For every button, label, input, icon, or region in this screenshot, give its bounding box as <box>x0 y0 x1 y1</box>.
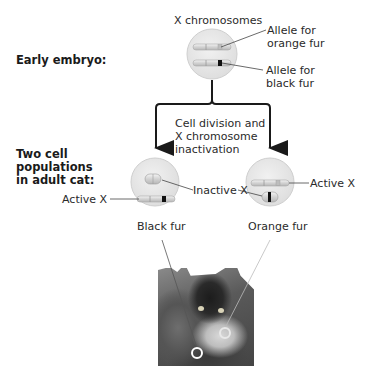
process-label: Cell division and X chromosome inactivat… <box>175 117 265 156</box>
allele-black-line2: black fur <box>266 77 315 90</box>
allele-black-line1: Allele for <box>266 64 315 77</box>
orange-fur-label: Orange fur <box>248 220 308 233</box>
black-fur-leader <box>162 240 197 348</box>
populations-line3: in adult cat: <box>16 174 94 187</box>
orange-fur-marker <box>220 328 230 338</box>
process-line3: inactivation <box>175 143 265 156</box>
allele-orange-line1: Allele for <box>267 24 325 37</box>
inactive-x-label: Inactive X <box>193 184 248 197</box>
black-fur-label: Black fur <box>137 220 186 233</box>
process-line1: Cell division and <box>175 117 265 130</box>
two-cell-populations-label: Two cell populations in adult cat: <box>16 148 94 187</box>
left-active-x-label: Active X <box>62 193 107 206</box>
black-fur-marker <box>192 348 202 358</box>
right-active-x-label: Active X <box>310 177 355 190</box>
allele-orange-line2: orange fur <box>267 37 325 50</box>
process-line2: X chromosome <box>175 130 265 143</box>
orange-fur-leader <box>225 240 270 328</box>
allele-orange-label: Allele for orange fur <box>267 24 325 50</box>
early-embryo-label: Early embryo: <box>16 54 106 67</box>
allele-black-label: Allele for black fur <box>266 64 315 90</box>
x-chromosomes-label: X chromosomes <box>174 14 262 27</box>
